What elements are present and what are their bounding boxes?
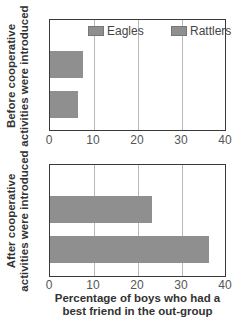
- bar-before-eagles: [50, 51, 83, 78]
- legend-label-rattlers: Rattlers: [190, 24, 231, 38]
- panel-after: [49, 164, 226, 277]
- panel2-y-title-line1: After cooperative: [5, 146, 18, 296]
- panel1-y-title-line1: Before cooperative: [5, 1, 18, 151]
- panel-before: Eagles Rattlers: [49, 19, 226, 131]
- tick-30: 30: [166, 133, 196, 147]
- tick-10: 10: [78, 278, 108, 292]
- tick-20: 20: [122, 278, 152, 292]
- tick-30: 30: [166, 278, 196, 292]
- tick-0: 0: [34, 133, 64, 147]
- tick-20: 20: [122, 133, 152, 147]
- tick-0: 0: [34, 278, 64, 292]
- legend-swatch-icon: [88, 26, 104, 36]
- panel1-y-title: Before cooperative activities were intro…: [5, 1, 31, 151]
- x-axis-title-line1: Percentage of boys who had a: [49, 292, 226, 305]
- legend-swatch-icon: [171, 26, 187, 36]
- legend-rattlers: Rattlers: [171, 24, 231, 38]
- legend-label-eagles: Eagles: [107, 24, 144, 38]
- bar-after-eagles: [50, 196, 152, 223]
- bar-before-rattlers: [50, 91, 78, 118]
- tick-40: 40: [210, 278, 240, 292]
- panel1-y-title-line2: activities were introduced: [18, 1, 31, 151]
- panel2-y-title-line2: activities were introduced: [18, 146, 31, 296]
- x-axis-title-line2: best friend in the out-group: [49, 305, 226, 318]
- legend-eagles: Eagles: [88, 24, 144, 38]
- tick-40: 40: [210, 133, 240, 147]
- tick-10: 10: [78, 133, 108, 147]
- panel2-y-title: After cooperative activities were introd…: [5, 146, 31, 296]
- bar-after-rattlers: [50, 236, 209, 263]
- x-axis-title: Percentage of boys who had a best friend…: [49, 292, 226, 318]
